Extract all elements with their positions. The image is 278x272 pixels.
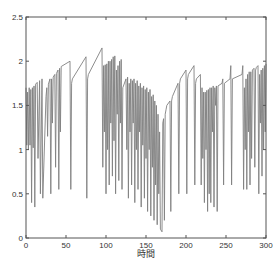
x-axis-label: 時間 [137,249,155,259]
y-tick-label: 1.5 [12,101,24,110]
line-chart: 050100150200250300 00.511.522.5 時間 [0,0,278,272]
y-tick-label: 0 [19,234,24,243]
x-tick-label: 50 [62,241,71,250]
x-tick-label: 0 [24,241,29,250]
x-tick-label: 300 [259,241,273,250]
x-tick-label: 250 [219,241,233,250]
y-tick-label: 2.5 [12,13,24,22]
x-tick-label: 100 [99,241,113,250]
x-tick-label: 200 [179,241,193,250]
y-tick-label: 1 [19,146,24,155]
y-tick-label: 2 [19,57,24,66]
y-tick-label: 0.5 [12,190,24,199]
